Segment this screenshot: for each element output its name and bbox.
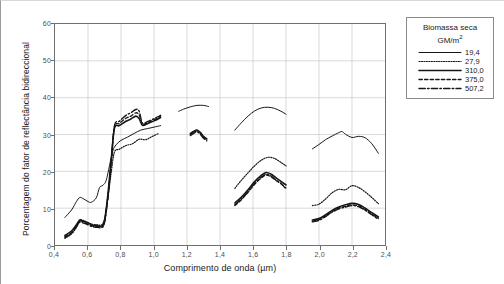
y-tick-label: 40 (43, 94, 51, 101)
x-tick-mark (386, 246, 387, 250)
x-tick-mark (286, 246, 287, 250)
x-axis-ticks: 0,40,60,81,01,21,41,61,82,02,22,4 (1, 251, 504, 263)
legend-title-exponent: 2 (459, 34, 462, 40)
legend-title-line1: Biomassa seca (423, 23, 477, 32)
y-tick-mark (51, 135, 55, 136)
legend-entry[interactable]: 507,2 (411, 84, 489, 93)
y-tick-label: 60 (43, 20, 51, 27)
legend-line-swatch (418, 76, 462, 83)
x-tick-label: 0,4 (49, 251, 59, 258)
x-tick-label: 0,8 (115, 251, 125, 258)
data-series-layer (55, 24, 385, 245)
legend: Biomassa seca GM/m2 19,427,9310,0375,050… (406, 17, 494, 99)
x-tick-label: 0,6 (82, 251, 92, 258)
legend-line-swatch (418, 49, 462, 56)
legend-entry[interactable]: 27,9 (411, 57, 489, 66)
series-507_2 (65, 109, 379, 237)
legend-entry-label: 310,0 (465, 66, 489, 75)
legend-line-swatch (418, 67, 462, 74)
x-tick-mark (87, 246, 88, 250)
legend-line-swatch (418, 58, 462, 65)
x-tick-label: 1,0 (148, 251, 158, 258)
y-tick-mark (51, 172, 55, 173)
legend-entry-label: 27,9 (465, 57, 489, 66)
legend-entry-label: 375,0 (465, 75, 489, 84)
legend-title-line2: GM/m (437, 35, 459, 44)
legend-entry[interactable]: 19,4 (411, 48, 489, 57)
x-tick-mark (187, 246, 188, 250)
x-tick-label: 2,2 (348, 251, 358, 258)
legend-title: Biomassa seca GM/m2 (411, 23, 489, 45)
x-tick-mark (320, 246, 321, 250)
x-axis-title: Comprimento de onda (µm) (54, 263, 386, 273)
x-tick-label: 2,0 (314, 251, 324, 258)
y-tick-mark (51, 97, 55, 98)
series-375_0 (65, 113, 379, 237)
x-tick-mark (154, 246, 155, 250)
x-tick-mark (120, 246, 121, 250)
legend-entries: 19,427,9310,0375,0507,2 (411, 48, 489, 93)
x-tick-mark (353, 246, 354, 250)
y-axis-title: Porcentagem do fator de reflectância bid… (21, 29, 31, 249)
y-tick-mark (51, 209, 55, 210)
x-tick-label: 1,8 (281, 251, 291, 258)
y-tick-mark (51, 60, 55, 61)
y-tick-label: 10 (43, 205, 51, 212)
plot-area (54, 23, 386, 246)
series-310_0 (65, 116, 379, 235)
x-tick-mark (253, 246, 254, 250)
y-tick-label: 30 (43, 131, 51, 138)
x-tick-mark (220, 246, 221, 250)
x-tick-mark (54, 246, 55, 250)
x-tick-label: 2,4 (381, 251, 391, 258)
y-axis-ticks: 0102030405060 (33, 23, 51, 246)
x-tick-label: 1,4 (215, 251, 225, 258)
legend-entry[interactable]: 375,0 (411, 75, 489, 84)
x-tick-label: 1,2 (182, 251, 192, 258)
legend-entry-label: 19,4 (465, 48, 489, 57)
y-tick-label: 20 (43, 168, 51, 175)
legend-entry[interactable]: 310,0 (411, 66, 489, 75)
figure-container: Porcentagem do fator de reflectância bid… (0, 0, 504, 284)
y-tick-label: 50 (43, 57, 51, 64)
legend-entry-label: 507,2 (465, 84, 489, 93)
y-tick-mark (51, 23, 55, 24)
legend-line-swatch (418, 85, 462, 92)
x-tick-label: 1,6 (248, 251, 258, 258)
